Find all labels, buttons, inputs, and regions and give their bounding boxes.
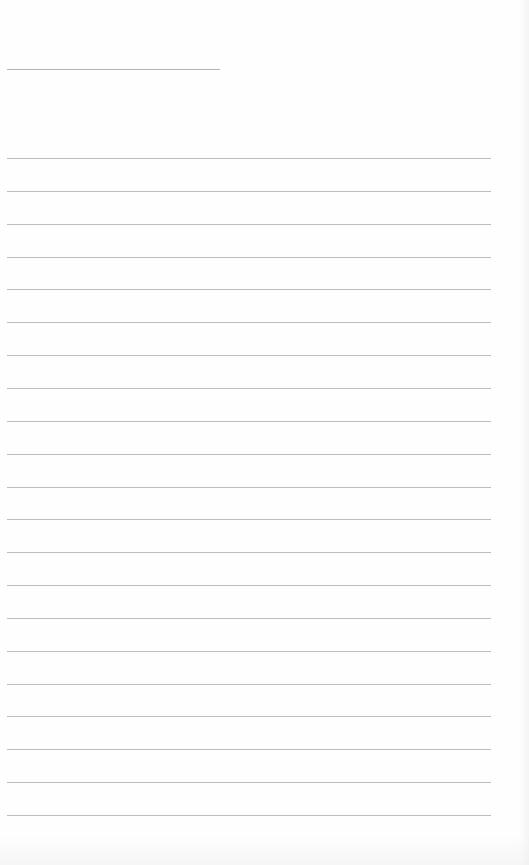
ruled-line: [7, 651, 491, 652]
ruled-line: [7, 355, 491, 356]
ruled-line: [7, 224, 491, 225]
ruled-line: [7, 618, 491, 619]
ruled-line: [7, 289, 491, 290]
ruled-line: [7, 519, 491, 520]
ruled-line: [7, 487, 491, 488]
ruled-line: [7, 421, 491, 422]
ruled-line: [7, 388, 491, 389]
ruled-line: [7, 749, 491, 750]
lined-paper-page: [0, 0, 529, 865]
ruled-line: [7, 191, 491, 192]
ruled-line: [7, 158, 491, 159]
ruled-line: [7, 716, 491, 717]
ruled-line: [7, 815, 491, 816]
ruled-line: [7, 782, 491, 783]
ruled-line: [7, 257, 491, 258]
ruled-line: [7, 454, 491, 455]
header-blank-line: [7, 69, 220, 70]
ruled-line: [7, 585, 491, 586]
ruled-line: [7, 684, 491, 685]
ruled-line: [7, 552, 491, 553]
ruled-line: [7, 322, 491, 323]
page-bottom-shadow: [0, 835, 529, 865]
page-edge-shadow: [519, 0, 529, 865]
